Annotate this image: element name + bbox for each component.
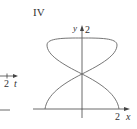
panel-label: IV	[33, 6, 45, 18]
x-tick-label: 2	[115, 111, 120, 122]
t-tick-label: 2	[4, 78, 9, 89]
t-axis-label: t	[14, 78, 17, 89]
y-axis-label: y	[73, 23, 77, 33]
x-axis-label: x	[126, 111, 130, 122]
y-tick-label: 2	[85, 24, 90, 35]
